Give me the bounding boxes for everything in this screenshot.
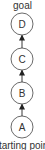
node-b-label: B [19,88,26,99]
starting-point-label: starting point [0,140,45,150]
node-b: B [11,82,33,104]
node-c: C [11,48,33,70]
node-a-label: A [19,122,26,133]
node-d-label: D [18,19,25,30]
node-a: A [11,116,33,138]
node-c-label: C [18,54,25,65]
node-d: D [11,13,33,35]
goal-label: goal [13,0,32,11]
path-diagram: goal D C B A starting point [0,0,45,150]
